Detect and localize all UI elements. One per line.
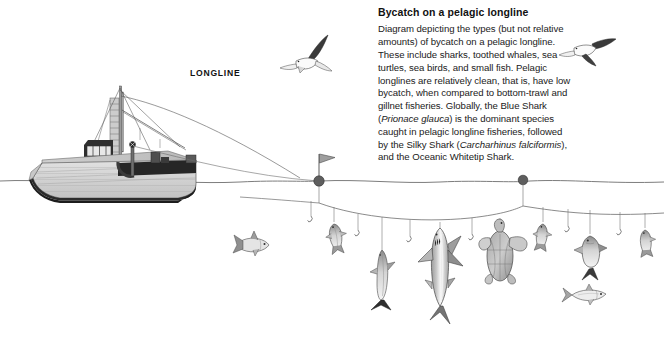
gangion-10 [565,209,570,232]
free-fish-right [562,284,606,305]
figure-caption: Diagram depicting the types (but not rel… [378,23,574,164]
vessel-hull [29,151,196,203]
caught-small-fish-2 [531,223,553,252]
flag-buoy [314,154,335,203]
caught-shark [418,228,463,324]
caption-panel: Bycatch on a pelagic longline Diagram de… [378,6,574,164]
longline-mainline [240,197,664,220]
gangion-5 [407,220,412,242]
figure-canvas: LONGLINE Bycatch on a pelagic longline D… [0,0,664,352]
caught-small-fish-1 [324,222,349,255]
longline-fishing-vessel [29,86,300,203]
gangion-7 [469,218,474,240]
float-buoy [518,175,528,206]
gangion-1 [308,201,313,222]
caption-part-1: Diagram depicting the types (but not rel… [378,23,570,124]
gangion-3 [355,214,360,236]
caught-sea-turtle [479,219,527,284]
caught-small-fish-3 [639,229,657,257]
figure-title: Bycatch on a pelagic longline [378,6,574,18]
caught-toothed-whale [370,250,395,310]
free-fish-left [233,231,269,256]
caught-fish-deep-body [574,236,607,280]
gangion-12 [617,212,622,235]
species-name-blue-shark: Prionace glauca [381,113,449,124]
longline-label: LONGLINE [190,68,240,78]
species-name-silky-shark: Carcharhinus falciformis [460,139,562,150]
seabird-left [280,35,332,73]
